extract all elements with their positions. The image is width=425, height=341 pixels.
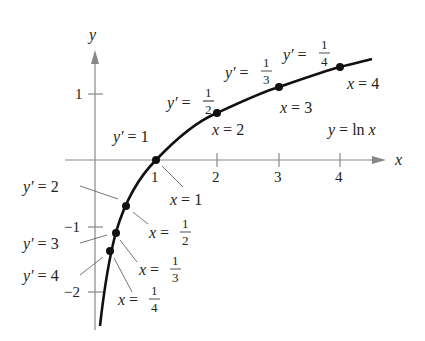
x-axis-label: x bbox=[394, 151, 402, 168]
svg-text:y′ =: y′ = bbox=[281, 46, 307, 64]
svg-text:x =: x = bbox=[138, 261, 159, 278]
x-tick-2: 2 bbox=[212, 169, 220, 185]
y-tick-neg1: −1 bbox=[64, 219, 80, 235]
svg-text:x =: x = bbox=[148, 224, 169, 241]
svg-text:1: 1 bbox=[172, 253, 179, 268]
svg-text:1: 1 bbox=[263, 55, 270, 70]
slope-label-x2: y′ = bbox=[165, 94, 191, 112]
svg-text:1: 1 bbox=[151, 283, 158, 298]
svg-text:4: 4 bbox=[321, 54, 328, 69]
function-label: y = ln x bbox=[326, 121, 376, 139]
svg-text:y′ =: y′ = bbox=[223, 64, 249, 82]
svg-text:1: 1 bbox=[182, 216, 189, 231]
slope-label-quarter: y′ = 4 bbox=[21, 267, 59, 285]
svg-text:3: 3 bbox=[263, 72, 270, 87]
svg-text:x = 1: x = 1 bbox=[169, 191, 202, 208]
svg-text:4: 4 bbox=[151, 300, 158, 315]
svg-text:x = 2: x = 2 bbox=[211, 121, 244, 138]
slope-labels: y′ = 1 y′ = 12 y′ = 13 y′ = 14 y′ = 2 y′… bbox=[21, 37, 328, 285]
points bbox=[106, 63, 344, 255]
y-tick-1: 1 bbox=[75, 86, 83, 102]
svg-text:2: 2 bbox=[205, 102, 212, 117]
x-tick-3: 3 bbox=[274, 169, 282, 185]
svg-text:1: 1 bbox=[205, 85, 212, 100]
svg-text:2: 2 bbox=[182, 233, 189, 248]
x-value-labels: x = 1 x = 2 x = 3 x = 4 x = 12 x = 13 x … bbox=[117, 75, 379, 315]
slope-label-third: y′ = 3 bbox=[21, 235, 59, 253]
svg-text:1: 1 bbox=[321, 37, 328, 52]
svg-text:3: 3 bbox=[172, 270, 179, 285]
slope-label-x1: y′ = 1 bbox=[111, 128, 149, 146]
ln-graph: x y 1 2 3 4 1 −1 −2 y′ = 1 y′ = 12 y′ = … bbox=[0, 0, 425, 341]
slope-label-half: y′ = 2 bbox=[21, 178, 59, 196]
x-tick-1: 1 bbox=[151, 169, 159, 185]
svg-text:x = 4: x = 4 bbox=[346, 75, 379, 92]
svg-text:x =: x = bbox=[117, 291, 138, 308]
x-tick-4: 4 bbox=[335, 169, 343, 185]
y-axis-label: y bbox=[87, 26, 97, 44]
svg-text:x = 3: x = 3 bbox=[279, 99, 312, 116]
ln-curve bbox=[100, 59, 372, 326]
axes bbox=[65, 50, 386, 330]
y-tick-neg2: −2 bbox=[64, 284, 80, 300]
